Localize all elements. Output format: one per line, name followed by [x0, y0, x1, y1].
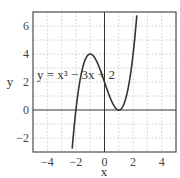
y-tick-label: 2 [23, 75, 29, 89]
y-tick-labels: −20246 [16, 19, 29, 145]
x-tick-label: 2 [130, 155, 136, 169]
x-axis-label: x [101, 164, 108, 178]
y-axis-label: y [7, 74, 14, 89]
y-tick-label: 4 [23, 47, 29, 61]
y-tick-label: 0 [23, 103, 29, 117]
x-tick-label: −4 [41, 155, 54, 169]
equation-annotation: y = x³ − 3x + 2 [37, 67, 115, 82]
y-tick-label: −2 [16, 131, 29, 145]
x-tick-label: 4 [159, 155, 165, 169]
x-tick-label: −2 [70, 155, 83, 169]
y-tick-label: 6 [23, 19, 29, 33]
chart: −4−2024 −20246 y = x³ − 3x + 2 x y [0, 0, 180, 178]
